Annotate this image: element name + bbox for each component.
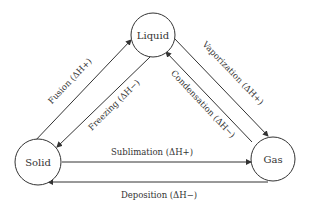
node-liquid: Liquid (131, 13, 175, 57)
vaporization-label: Vaporization (ΔH+) (200, 38, 266, 106)
condensation-label: Condensation (ΔH−) (169, 68, 237, 140)
fusion-arrow (33, 40, 131, 143)
node-gas: Gas (251, 137, 295, 181)
condensation-arrow (166, 52, 252, 142)
freezing-arrow (57, 57, 150, 147)
phase-diagram: Liquid Solid Gas Fusion (ΔH+) Freezing (… (0, 0, 311, 209)
node-gas-label: Gas (263, 154, 282, 165)
freezing-label: Freezing (ΔH−) (86, 77, 142, 132)
node-solid: Solid (15, 139, 61, 185)
sublimation-label: Sublimation (ΔH+) (111, 147, 193, 157)
deposition-label: Deposition (ΔH−) (121, 190, 197, 200)
node-liquid-label: Liquid (137, 30, 170, 41)
fusion-label: Fusion (ΔH+) (46, 56, 94, 106)
node-solid-label: Solid (25, 157, 51, 168)
